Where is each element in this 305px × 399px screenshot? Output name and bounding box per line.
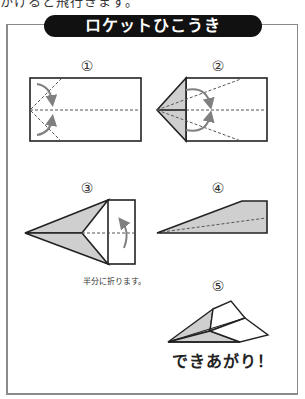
step-3-diagram bbox=[25, 200, 135, 264]
step-4-diagram bbox=[157, 201, 267, 233]
step-3-caption: 半分に折ります。 bbox=[83, 275, 146, 286]
step-2-number: ② bbox=[208, 58, 228, 74]
folding-diagram bbox=[0, 0, 305, 399]
step-2-diagram bbox=[157, 78, 267, 141]
step-3-number: ③ bbox=[77, 180, 97, 196]
step-4-number: ④ bbox=[208, 180, 228, 196]
step-1-diagram bbox=[30, 78, 141, 141]
step-5-number: ⑤ bbox=[208, 278, 228, 294]
step-1-number: ① bbox=[77, 58, 97, 74]
complete-label: できあがり！ bbox=[172, 348, 274, 372]
step-5-diagram bbox=[168, 301, 268, 342]
